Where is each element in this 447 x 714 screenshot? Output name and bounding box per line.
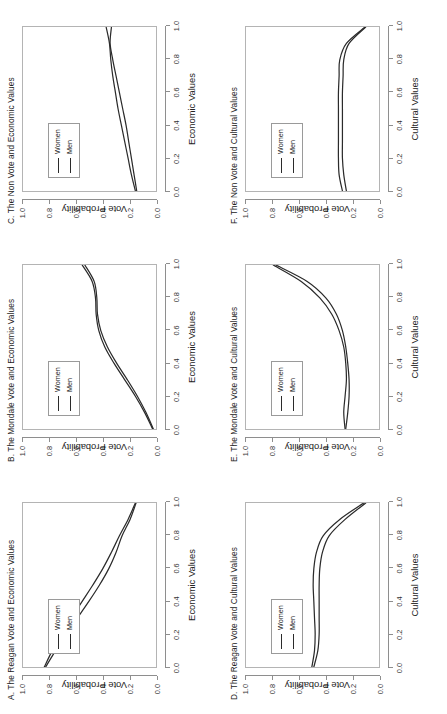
x-tick-label-f-4: 0.8 <box>395 54 404 64</box>
legend-d: WomenMen <box>271 599 303 654</box>
legend-e: WomenMen <box>271 361 303 416</box>
x-tick-label-f-1: 0.2 <box>395 154 404 164</box>
y-axis-label-c: Vote Probability <box>27 204 162 215</box>
y-axis-label-e: Vote Probability <box>250 442 385 453</box>
x-tick-f-0 <box>389 191 393 192</box>
x-tick-a-5 <box>166 501 170 502</box>
x-tick-label-e-2: 0.4 <box>395 358 404 368</box>
legend-row-men: Men <box>288 129 298 173</box>
x-tick-label-a-0: 0.0 <box>172 663 181 673</box>
x-tick-d-5 <box>389 501 393 502</box>
x-tick-label-d-2: 0.4 <box>395 596 404 606</box>
legend-label-men: Men <box>289 140 296 154</box>
x-tick-label-c-5: 1.0 <box>172 21 181 31</box>
legend-line-icon-women <box>281 396 282 411</box>
curves-svg-c <box>23 27 156 191</box>
rotated-figure-wrapper: A. The Reagan Vote and Economic Values0.… <box>0 0 447 714</box>
y-axis-line-f <box>245 199 380 200</box>
x-tick-d-4 <box>389 534 393 535</box>
legend-label-men: Men <box>289 378 296 392</box>
x-tick-b-3 <box>166 329 170 330</box>
panel-title-e: E. The Mondale Vote and Cultural Values <box>229 307 239 462</box>
x-axis-line-e <box>388 264 389 430</box>
x-tick-label-c-2: 0.4 <box>172 120 181 130</box>
y-axis-line-b <box>22 437 157 438</box>
x-axis-label-e: Cultural Values <box>409 264 420 430</box>
y-tick-label-c-5: 1.0 <box>18 208 27 218</box>
x-tick-b-0 <box>166 429 170 430</box>
panel-e: E. The Mondale Vote and Cultural Values0… <box>223 238 446 476</box>
y-tick-label-a-5: 1.0 <box>18 684 27 694</box>
legend-row-women: Women <box>276 129 286 173</box>
x-tick-label-f-5: 1.0 <box>395 21 404 31</box>
legend-label-men: Men <box>66 378 73 392</box>
y-tick-c-5 <box>22 200 23 204</box>
y-axis-label-a: Vote Probability <box>27 680 162 691</box>
legend-line-icon-women <box>58 396 59 411</box>
x-tick-label-e-1: 0.2 <box>395 392 404 402</box>
legend-label-men: Men <box>66 616 73 630</box>
x-tick-label-b-2: 0.4 <box>172 358 181 368</box>
y-axis-line-e <box>245 437 380 438</box>
plot-area-f <box>245 26 380 192</box>
x-tick-f-5 <box>389 25 393 26</box>
figure-panel-grid: A. The Reagan Vote and Economic Values0.… <box>0 0 447 714</box>
x-tick-d-0 <box>389 667 393 668</box>
x-tick-a-1 <box>166 634 170 635</box>
legend-label-women: Women <box>277 367 284 392</box>
x-tick-a-2 <box>166 601 170 602</box>
x-tick-f-3 <box>389 91 393 92</box>
x-tick-a-3 <box>166 567 170 568</box>
curve-men-f <box>342 27 365 191</box>
x-axis-line-a <box>165 502 166 668</box>
legend-row-men: Men <box>65 129 75 173</box>
x-tick-label-b-5: 1.0 <box>172 259 181 269</box>
legend-label-women: Women <box>54 605 61 630</box>
curve-men-d <box>314 503 366 667</box>
y-tick-d-5 <box>245 676 246 680</box>
legend-label-women: Women <box>54 367 61 392</box>
y-axis-line-c <box>22 199 157 200</box>
x-tick-label-e-3: 0.6 <box>395 325 404 335</box>
x-tick-label-e-5: 1.0 <box>395 259 404 269</box>
legend-row-women: Women <box>53 605 63 649</box>
legend-label-women: Women <box>54 129 61 154</box>
panel-title-c: C. The Non Vote and Economic Values <box>6 77 16 224</box>
x-tick-e-0 <box>389 429 393 430</box>
x-tick-label-a-2: 0.4 <box>172 596 181 606</box>
panel-title-b: B. The Mondale Vote and Economic Values <box>6 299 16 462</box>
legend-label-men: Men <box>66 140 73 154</box>
curve-men-c <box>106 27 135 191</box>
x-axis-label-a: Economic Values <box>186 502 197 668</box>
plot-area-d <box>245 502 380 668</box>
x-tick-b-2 <box>166 363 170 364</box>
x-axis-label-f: Cultural Values <box>409 26 420 192</box>
legend-label-women: Women <box>277 605 284 630</box>
x-tick-label-e-0: 0.0 <box>395 425 404 435</box>
x-tick-b-4 <box>166 296 170 297</box>
y-axis-line-a <box>22 675 157 676</box>
legend-a: WomenMen <box>48 599 80 654</box>
legend-line-icon-men <box>70 634 71 649</box>
x-tick-c-1 <box>166 158 170 159</box>
plot-area-e <box>245 264 380 430</box>
x-tick-label-f-3: 0.6 <box>395 87 404 97</box>
x-tick-label-d-3: 0.6 <box>395 563 404 573</box>
legend-label-men: Men <box>289 616 296 630</box>
x-tick-f-1 <box>389 158 393 159</box>
plot-area-a <box>22 502 157 668</box>
panel-title-f: F. The Non Vote and Cultural Values <box>229 87 239 224</box>
x-tick-label-d-1: 0.2 <box>395 630 404 640</box>
legend-line-icon-men <box>70 396 71 411</box>
legend-f: WomenMen <box>271 123 303 178</box>
x-tick-a-0 <box>166 667 170 668</box>
x-tick-f-2 <box>389 125 393 126</box>
panel-f: F. The Non Vote and Cultural Values0.00.… <box>223 0 446 238</box>
x-tick-label-b-0: 0.0 <box>172 425 181 435</box>
y-axis-label-f: Vote Probability <box>250 204 385 215</box>
legend-row-women: Women <box>53 367 63 411</box>
x-tick-label-b-4: 0.8 <box>172 292 181 302</box>
panel-title-d: D. The Reagan Vote and Cultural Values <box>229 547 239 700</box>
x-tick-a-4 <box>166 534 170 535</box>
plot-area-c <box>22 26 157 192</box>
